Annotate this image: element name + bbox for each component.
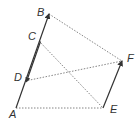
segment-DF bbox=[25, 61, 122, 81]
label-point-C: C bbox=[28, 31, 36, 42]
label-point-D: D bbox=[14, 72, 22, 83]
segment-BF bbox=[49, 14, 122, 61]
label-point-A: A bbox=[9, 109, 16, 120]
vector-diagram bbox=[0, 0, 140, 120]
vector-CD bbox=[27, 42, 41, 82]
label-point-B: B bbox=[37, 7, 44, 18]
label-point-F: F bbox=[127, 53, 134, 64]
segment-CE bbox=[39, 41, 103, 108]
label-point-E: E bbox=[110, 104, 117, 115]
diagram-canvas: A B C D E F bbox=[0, 0, 140, 120]
vector-EF bbox=[103, 61, 122, 108]
vector-AB bbox=[16, 14, 49, 108]
